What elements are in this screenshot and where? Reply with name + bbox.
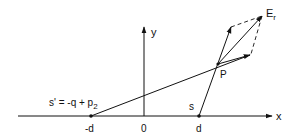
x-axis-label: x <box>276 110 282 122</box>
resultant-field-label: Er <box>266 7 276 22</box>
image-source-ray <box>91 55 250 116</box>
field-point-P <box>216 62 219 65</box>
source-label: s <box>189 101 194 112</box>
resultant-field-label-base: E <box>266 7 273 19</box>
tick-label-origin: 0 <box>141 123 147 134</box>
image-source-label-sub: 2 <box>93 102 98 111</box>
field-diagram: x y -d 0 d P s s' = -q + p2 Er <box>0 0 295 138</box>
resultant-field-label-sub: r <box>273 13 276 22</box>
tick-label-neg-d: -d <box>85 123 94 134</box>
tick-label-d: d <box>196 123 202 134</box>
y-axis-label: y <box>151 26 157 38</box>
image-source-label-base: s' = -q + p <box>49 97 94 108</box>
image-source-label: s' = -q + p2 <box>49 97 98 111</box>
point-P-label: P <box>220 69 227 80</box>
